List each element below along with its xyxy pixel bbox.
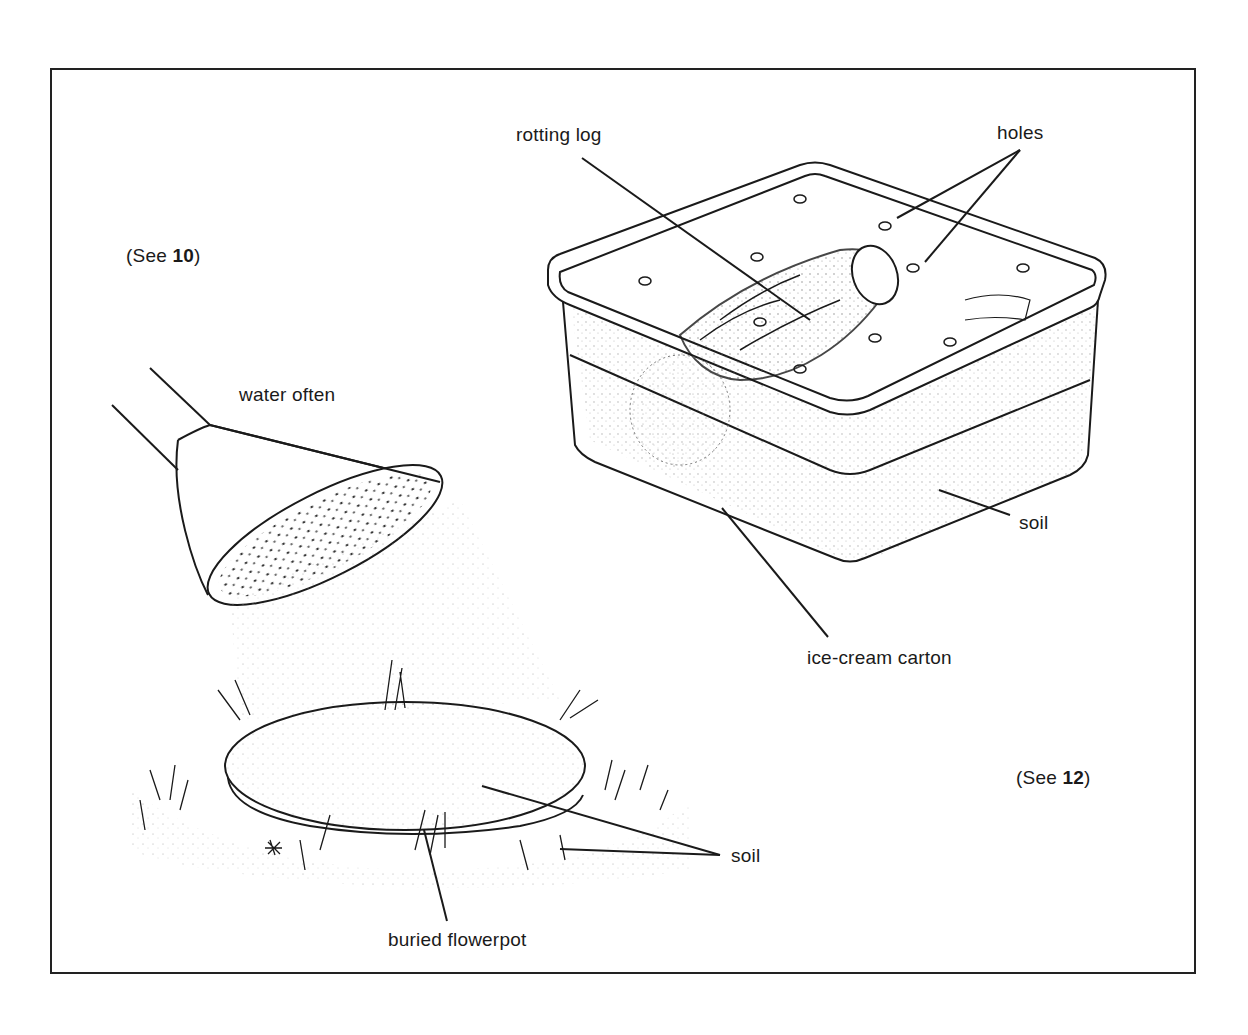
label-buried-flowerpot: buried flowerpot <box>388 929 526 951</box>
ice-cream-carton-icon <box>548 163 1106 562</box>
label-ice-cream-carton: ice-cream carton <box>807 647 952 669</box>
reference-see-12: (See 12) <box>1016 767 1091 789</box>
illustration <box>0 0 1248 1035</box>
reference-see-10: (See 10) <box>126 245 201 267</box>
label-water-often: water often <box>239 384 335 406</box>
label-holes: holes <box>997 122 1043 144</box>
label-rotting-log: rotting log <box>516 124 602 146</box>
label-soil-pot: soil <box>731 845 760 867</box>
label-soil-carton: soil <box>1019 512 1048 534</box>
